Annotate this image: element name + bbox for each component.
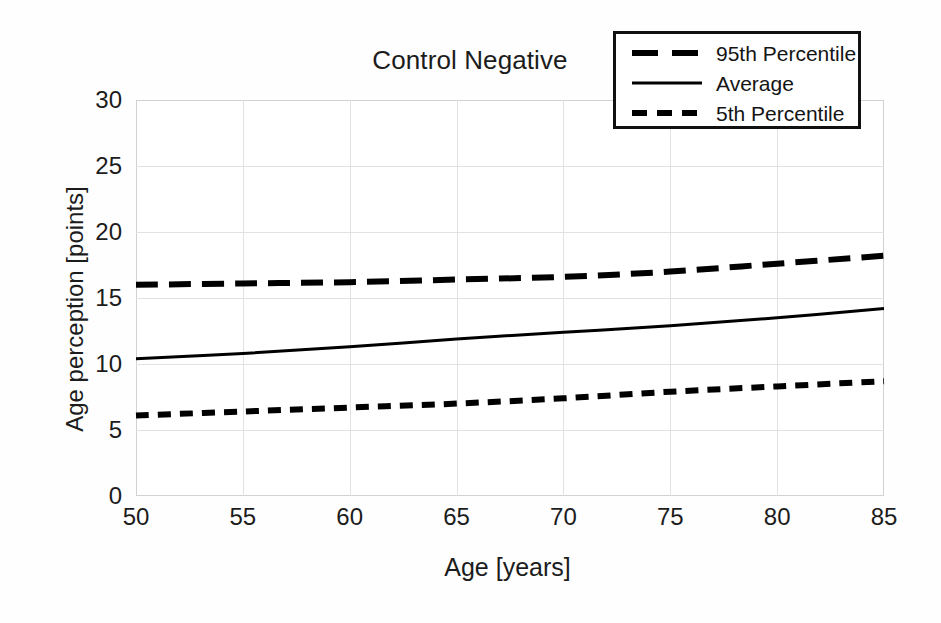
legend-swatch-average — [630, 76, 704, 90]
legend-item-5th: 5th Percentile — [616, 98, 858, 128]
x-tick-label: 65 — [417, 503, 497, 531]
data-curves — [136, 100, 884, 496]
x-tick-label: 50 — [96, 503, 176, 531]
x-tick-label: 60 — [310, 503, 390, 531]
x-tick-label: 75 — [630, 503, 710, 531]
chart-title: Control Negative — [330, 45, 610, 76]
legend-item-average: Average — [616, 68, 858, 98]
x-tick-label: 85 — [844, 503, 924, 531]
x-tick-label: 70 — [523, 503, 603, 531]
legend-swatch-5th-percentile — [630, 106, 704, 120]
x-axis-title: Age [years] — [130, 553, 885, 582]
figure-container: Control Negative Age perception [points]… — [0, 0, 941, 623]
y-tick-label: 15 — [62, 284, 122, 312]
x-tick-label: 55 — [203, 503, 283, 531]
legend-box: 95th Percentile Average 5th Percentile — [613, 31, 861, 129]
legend-item-95th: 95th Percentile — [616, 38, 858, 68]
y-tick-label: 25 — [62, 152, 122, 180]
series-line-5th-percentile — [136, 381, 884, 415]
legend-swatch-95th-percentile — [630, 46, 704, 60]
y-tick-label: 20 — [62, 218, 122, 246]
legend-label-5th-percentile: 5th Percentile — [716, 103, 844, 124]
y-tick-label: 5 — [62, 416, 122, 444]
x-tick-label: 80 — [737, 503, 817, 531]
legend-label-95th-percentile: 95th Percentile — [716, 43, 856, 64]
x-axis-tick-labels: 5055606570758085 — [136, 503, 884, 537]
y-axis-tick-labels: 051015202530 — [56, 100, 122, 496]
series-line-average — [136, 309, 884, 359]
y-tick-label: 30 — [62, 86, 122, 114]
legend-label-average: Average — [716, 73, 794, 94]
plot-area — [136, 100, 884, 496]
series-line-95th-percentile — [136, 256, 884, 285]
y-tick-label: 10 — [62, 350, 122, 378]
